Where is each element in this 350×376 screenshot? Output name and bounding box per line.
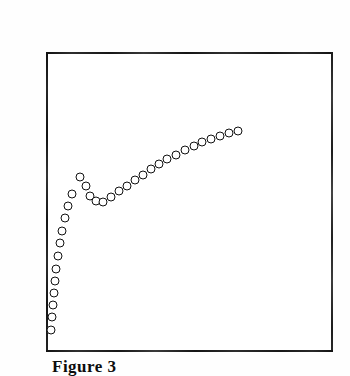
figure-page: Figure 3 — [0, 0, 350, 376]
plot-frame — [46, 52, 333, 352]
plot-frame-right-border — [331, 52, 333, 352]
figure-caption: Figure 3 — [52, 357, 117, 376]
plot-frame-left-border — [46, 52, 48, 352]
plot-frame-top-border — [46, 52, 333, 54]
plot-frame-bottom-border — [46, 350, 333, 352]
